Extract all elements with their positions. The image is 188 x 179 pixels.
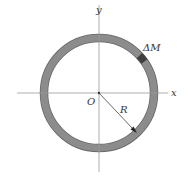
radius-line: [99, 93, 134, 130]
radius-label: R: [119, 104, 128, 115]
diagram-canvas: x y O R ΔM: [0, 0, 188, 179]
origin-label: O: [87, 96, 95, 107]
x-axis-label: x: [171, 87, 177, 98]
mass-element-label: ΔM: [142, 42, 161, 53]
y-axis-label: y: [95, 4, 102, 15]
ring-diagram: x y O R ΔM: [0, 0, 188, 179]
mass-element: [139, 56, 144, 62]
